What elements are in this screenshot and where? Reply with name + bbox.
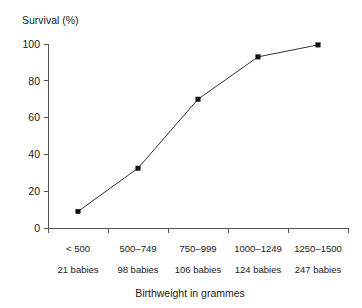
x-axis-tick-labels: < 500500–749750–9991000–12491250–1500 <box>66 243 342 254</box>
x-tick-label: 1250–1500 <box>294 243 342 254</box>
data-point-marker <box>256 55 260 59</box>
x-axis-title: Birthweight in grammes <box>135 287 245 299</box>
x-tick-label: < 500 <box>66 243 90 254</box>
y-tick-label: 20 <box>28 185 40 197</box>
survival-series <box>78 45 318 212</box>
data-point-marker <box>316 43 320 47</box>
x-count-label: 124 babies <box>235 264 282 275</box>
axis-titles: Survival (%) Birthweight in grammes <box>22 14 245 299</box>
x-count-label: 247 babies <box>295 264 342 275</box>
data-point-markers <box>76 43 320 214</box>
survival-by-birthweight-chart: Survival (%) Birthweight in grammes 0204… <box>0 0 362 308</box>
x-tick-label: 500–749 <box>120 243 157 254</box>
y-tick-label: 100 <box>22 38 40 50</box>
x-tick-label: 1000–1249 <box>234 243 282 254</box>
x-axis-count-labels: 21 babies98 babies106 babies124 babies24… <box>57 264 341 275</box>
data-point-marker <box>76 209 80 213</box>
y-tick-label: 40 <box>28 148 40 160</box>
y-axis: 020406080100 <box>22 38 48 234</box>
y-axis-title: Survival (%) <box>22 14 79 26</box>
x-count-label: 21 babies <box>57 264 98 275</box>
y-tick-label: 80 <box>28 75 40 87</box>
chart-canvas: Survival (%) Birthweight in grammes 0204… <box>0 0 362 308</box>
x-count-label: 106 babies <box>175 264 222 275</box>
series-line <box>78 45 318 212</box>
x-axis <box>48 228 348 233</box>
x-tick-label: 750–999 <box>180 243 217 254</box>
x-count-label: 98 babies <box>117 264 158 275</box>
data-point-marker <box>136 166 140 170</box>
y-tick-label: 60 <box>28 111 40 123</box>
y-tick-label: 0 <box>34 222 40 234</box>
data-point-marker <box>196 97 200 101</box>
